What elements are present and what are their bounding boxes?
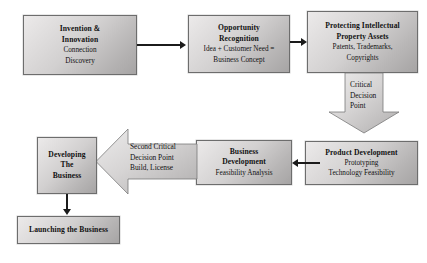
node-sub-line1: Connection [63, 45, 96, 55]
node-sub-line1: Idea + Customer Need = [204, 44, 275, 54]
node-title-line2: Property Assets [336, 32, 388, 43]
block-arrow-line2: Decision Point [130, 153, 176, 164]
arrowhead-down-icon [63, 209, 71, 215]
block-arrow-line1: Critical [350, 80, 376, 91]
node-sub-line2: Copyrights [347, 53, 379, 63]
node-sub-line2: Discovery [65, 56, 95, 66]
block-arrow-line3: Point [350, 101, 376, 112]
node-launching-the-business[interactable]: Launching the Business [17, 216, 120, 244]
node-product-development[interactable]: Product Development Prototyping Technolo… [305, 141, 418, 185]
block-arrow-text: Second Critical Decision Point Build, Li… [130, 142, 176, 174]
node-title-line1: Invention & [60, 24, 101, 35]
node-title-line2: Recognition [219, 34, 259, 45]
block-arrow-line2: Decision [350, 91, 376, 102]
connector-product-dev-to-business-dev [298, 162, 320, 164]
arrowhead-left-icon [292, 159, 298, 167]
node-sub-line2: Technology Feasibility [329, 168, 395, 178]
block-arrow-critical-decision-point[interactable]: Critical Decision Point [329, 73, 399, 133]
node-business-development[interactable]: Business Development Feasibility Analysi… [196, 140, 292, 185]
block-arrow-line3: Build, License [130, 163, 176, 174]
node-title-line1: Business [230, 147, 259, 158]
node-title-line1: Protecting Intellectual [325, 21, 400, 32]
diagram-canvas: Invention & Innovation Connection Discov… [0, 0, 427, 263]
connector-invention-to-opportunity [137, 44, 182, 46]
node-sub-line2: Business Concept [213, 55, 264, 65]
node-invention-innovation[interactable]: Invention & Innovation Connection Discov… [23, 15, 137, 75]
node-title-line1: Opportunity [218, 23, 260, 34]
node-opportunity-recognition[interactable]: Opportunity Recognition Idea + Customer … [188, 15, 290, 73]
block-arrow-text: Critical Decision Point [350, 80, 376, 112]
block-arrow-line1: Second Critical [130, 142, 176, 153]
block-arrow-second-critical-decision-point[interactable]: Second Critical Decision Point Build, Li… [96, 129, 197, 194]
node-title-line1: Product Development [325, 148, 397, 159]
node-title-line1: Developing [48, 150, 85, 161]
node-title-line2: The [61, 160, 74, 171]
node-developing-the-business[interactable]: Developing The Business [37, 137, 97, 194]
node-title-line2: Development [222, 157, 266, 168]
node-sub-line1: Patents, Trademarks, [332, 42, 392, 52]
node-title-line2: Innovation [62, 35, 98, 46]
node-protecting-ip-assets[interactable]: Protecting Intellectual Property Assets … [307, 11, 418, 73]
node-sub-line1: Feasibility Analysis [216, 168, 273, 178]
node-sub-line1: Prototyping [345, 158, 379, 168]
node-title-line1: Launching the Business [29, 225, 108, 236]
arrowhead-right-icon [180, 41, 186, 49]
node-title-line3: Business [53, 171, 82, 182]
